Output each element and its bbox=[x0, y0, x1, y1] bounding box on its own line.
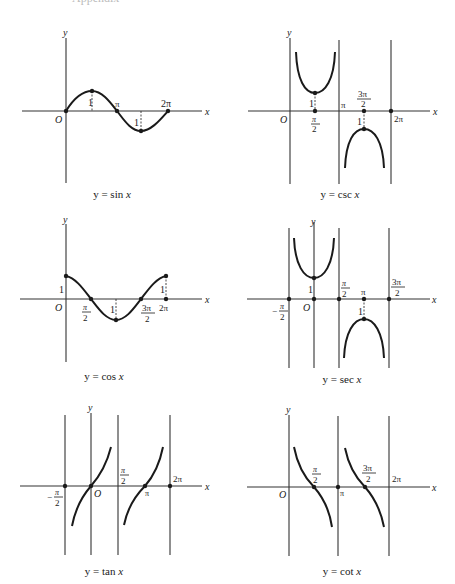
x-axis-label: x bbox=[204, 294, 210, 305]
one-label: 1 bbox=[357, 116, 362, 127]
one-label: 1 bbox=[59, 284, 64, 295]
three-pi-half-denominator: 2 bbox=[395, 288, 400, 298]
csc-lower-branch bbox=[345, 129, 384, 168]
minus-sign: − bbox=[47, 492, 52, 502]
origin-label: O bbox=[55, 114, 62, 125]
caption-sin: y = sin x bbox=[93, 188, 131, 200]
y-axis-label: y bbox=[87, 402, 93, 413]
cos-graph: y x O 1 1 1 π 2 3π 2 2π bbox=[20, 214, 210, 362]
x-axis-label: x bbox=[432, 106, 438, 117]
pi-half-numerator: π bbox=[342, 279, 347, 288]
pi-label: π bbox=[145, 489, 149, 498]
pi-half-numerator: π bbox=[313, 465, 318, 474]
y-axis-label: y bbox=[286, 27, 292, 38]
neg-pi-half-denominator: 2 bbox=[55, 498, 60, 508]
pi-half-denominator: 2 bbox=[121, 476, 126, 486]
pi-half-denominator: 2 bbox=[83, 313, 88, 323]
x-axis-label: x bbox=[204, 481, 210, 492]
three-pi-half-numerator: 3π bbox=[358, 89, 368, 99]
sec-graph: y x O 1 1 − π 2 π 2 π 3π 2 bbox=[247, 216, 437, 368]
two-pi-label: 2π bbox=[173, 474, 183, 484]
pi-half-numerator: π bbox=[83, 303, 88, 312]
y-axis-label: y bbox=[62, 27, 68, 38]
trig-graphs-figure: y x O 1 1 π 2π y x O 1 1 π 2 π 3π 2 2 bbox=[0, 0, 455, 584]
three-pi-half-denominator: 2 bbox=[366, 474, 371, 484]
two-pi-label: 2π bbox=[392, 474, 402, 484]
pi-half-numerator: π bbox=[121, 466, 126, 475]
neg-pi-half-numerator: π bbox=[280, 302, 285, 311]
caption-cos: y = cos x bbox=[84, 370, 124, 382]
three-pi-half-numerator: 3π bbox=[363, 463, 373, 473]
x-axis-label: x bbox=[204, 106, 210, 117]
one-label: 1 bbox=[88, 97, 93, 108]
pi-half-denominator: 2 bbox=[342, 289, 347, 299]
pi-half-denominator: 2 bbox=[312, 124, 317, 134]
one-label: 1 bbox=[358, 306, 363, 317]
pi-label: π bbox=[361, 287, 366, 297]
x-axis-label: x bbox=[431, 294, 437, 305]
three-pi-half-denominator: 2 bbox=[145, 314, 150, 324]
one-label: 1 bbox=[134, 117, 139, 128]
two-pi-label: 2π bbox=[161, 98, 171, 109]
one-label: 1 bbox=[308, 284, 313, 295]
origin-label: O bbox=[94, 488, 101, 499]
pi-half-numerator: π bbox=[312, 115, 317, 124]
pi-label: π bbox=[341, 100, 346, 110]
one-label: 1 bbox=[110, 304, 115, 315]
x-axis-label: x bbox=[431, 482, 437, 493]
three-pi-half-numerator: 3π bbox=[392, 277, 402, 287]
origin-label: O bbox=[280, 114, 287, 125]
caption-cot: y = cot x bbox=[323, 565, 361, 577]
sec-lower-branch bbox=[344, 319, 384, 358]
y-axis-label: y bbox=[310, 216, 316, 227]
caption-tan: y = tan x bbox=[85, 565, 123, 577]
origin-label: O bbox=[279, 489, 286, 500]
sin-graph: y x O 1 1 π 2π bbox=[22, 27, 210, 183]
tan-graph: y x O − π 2 π 2 π 2π bbox=[20, 402, 210, 555]
origin-label: O bbox=[303, 302, 310, 313]
neg-pi-half-denominator: 2 bbox=[280, 312, 285, 322]
three-pi-half-denominator: 2 bbox=[361, 99, 366, 109]
caption-csc: y = csc x bbox=[321, 188, 360, 200]
pi-half-denominator: 2 bbox=[313, 475, 318, 485]
y-axis-label: y bbox=[285, 404, 291, 415]
neg-pi-half-numerator: π bbox=[55, 488, 60, 497]
one-label: 1 bbox=[309, 98, 314, 109]
csc-upper-branch bbox=[296, 52, 335, 93]
origin-label: O bbox=[55, 302, 62, 313]
caption-sec: y = sec x bbox=[323, 373, 362, 385]
csc-graph: y x O 1 1 π 2 π 3π 2 2π bbox=[248, 27, 438, 184]
pi-label: π bbox=[340, 489, 344, 498]
two-pi-label: 2π bbox=[394, 114, 404, 124]
three-pi-half-numerator: 3π bbox=[142, 303, 152, 313]
minus-sign: − bbox=[272, 306, 277, 316]
two-pi-label: 2π bbox=[159, 303, 169, 313]
cot-graph: y x O π 2 π 3π 2 2π bbox=[247, 404, 437, 556]
y-axis-label: y bbox=[62, 214, 68, 225]
pi-label: π bbox=[115, 99, 120, 109]
one-label: 1 bbox=[160, 284, 165, 295]
